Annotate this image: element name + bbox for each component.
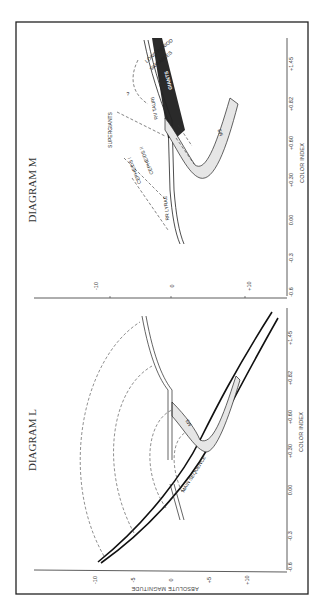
m-tick-060: +0.60 bbox=[288, 136, 294, 150]
l-tick-000: 0.00 bbox=[287, 485, 293, 496]
cepheids-i-label: CEPHEIDS I bbox=[126, 156, 142, 185]
rr-lyrae-label: RR LYRAE bbox=[162, 195, 171, 221]
arc-1 bbox=[80, 322, 140, 556]
l-mag-tick-0: 0 bbox=[168, 578, 174, 581]
l-mag-tick-n10: -10 bbox=[92, 576, 98, 584]
arc-2 bbox=[114, 366, 152, 533]
arrow-rv-tauri bbox=[133, 60, 148, 104]
l-tick-060: +0.60 bbox=[287, 410, 293, 424]
l-magnitude-axis-label: ABSOLUTE MAGNITUDE bbox=[131, 586, 199, 592]
m-tick-145: +1.45 bbox=[288, 57, 294, 71]
l-color-axis-label: COLOR INDEX bbox=[298, 412, 304, 452]
diagram-l-title: DIAGRAM L bbox=[26, 409, 38, 471]
m-tick-n03: -0.3 bbox=[288, 253, 294, 262]
m-mag-tick-n10: -10 bbox=[93, 282, 99, 290]
diagram-m: DIAGRAM M -0.6 -0.3 0.00 +0.30 +0.60 +0.… bbox=[26, 37, 305, 298]
m-mag-tick-0: 0 bbox=[169, 284, 175, 287]
l-tick-145: +1.45 bbox=[287, 331, 293, 345]
l-tick-n06: -0.6 bbox=[287, 562, 293, 571]
question-label: ? bbox=[127, 91, 130, 97]
m-tick-082: +0.82 bbox=[288, 97, 294, 111]
main-sequence-track bbox=[98, 312, 272, 562]
rv-tauri-label: RV TAURI bbox=[149, 97, 159, 120]
m-mag-tick-p10: +10 bbox=[246, 281, 252, 290]
l-tick-030: +0.30 bbox=[287, 444, 293, 458]
hr-diagram-figure: DIAGRAM M -0.6 -0.3 0.00 +0.30 +0.60 +0.… bbox=[0, 0, 326, 612]
l-m3-band bbox=[172, 376, 240, 452]
l-mag-tick-n5: -5 bbox=[130, 578, 136, 583]
diagram-l: DIAGRAM L -0.6 -0.3 0.00 +0.30 +0.60 +0.… bbox=[26, 308, 304, 592]
diagram-m-title: DIAGRAM M bbox=[26, 157, 38, 222]
l-tick-n03: -0.3 bbox=[287, 531, 293, 540]
l-mag-tick-p10: +10 bbox=[244, 575, 250, 584]
m-color-axis-label: COLOR INDEX bbox=[299, 143, 305, 183]
l-mag-tick-p5: +5 bbox=[206, 577, 212, 583]
main-sequence-label: MAIN SEQUENCE bbox=[180, 454, 208, 493]
cepheids-ii-label: CEPHEIDS II bbox=[138, 146, 155, 176]
m-tick-000: 0.00 bbox=[288, 215, 294, 226]
m-tick-030: +0.30 bbox=[288, 173, 294, 187]
m-tick-n06: -0.6 bbox=[288, 287, 294, 296]
diagram-l-magnitude-axis bbox=[34, 570, 287, 572]
arc-3 bbox=[150, 410, 172, 508]
supergiants-label: SUPERGIANTS bbox=[107, 111, 113, 148]
l-tick-082: +0.82 bbox=[287, 371, 293, 385]
l-horizontal-branch bbox=[142, 316, 168, 460]
